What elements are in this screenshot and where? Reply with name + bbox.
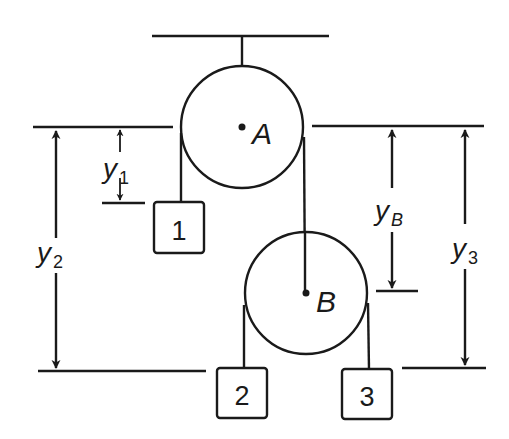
y2-label: y2 (35, 237, 63, 272)
block-3: 3 (342, 369, 392, 419)
block-2-label: 2 (234, 381, 249, 411)
block-1: 1 (154, 202, 204, 253)
pulley-b-axle-dot (303, 290, 310, 297)
block-1-label: 1 (171, 216, 186, 246)
pulley-a-axle-dot (239, 124, 246, 131)
y1-label: y1 (101, 153, 129, 188)
pulley-diagram: A B 1 2 3 y1 y2 yB (0, 0, 509, 439)
block-2: 2 (217, 368, 267, 418)
block-3-label: 3 (359, 382, 374, 412)
pulley-b-label: B (316, 285, 336, 318)
rope-b-to-block-3 (368, 303, 369, 370)
pulley-a-label: A (250, 117, 272, 150)
y3-label: y3 (450, 233, 478, 268)
yb-label: yB (373, 195, 403, 230)
